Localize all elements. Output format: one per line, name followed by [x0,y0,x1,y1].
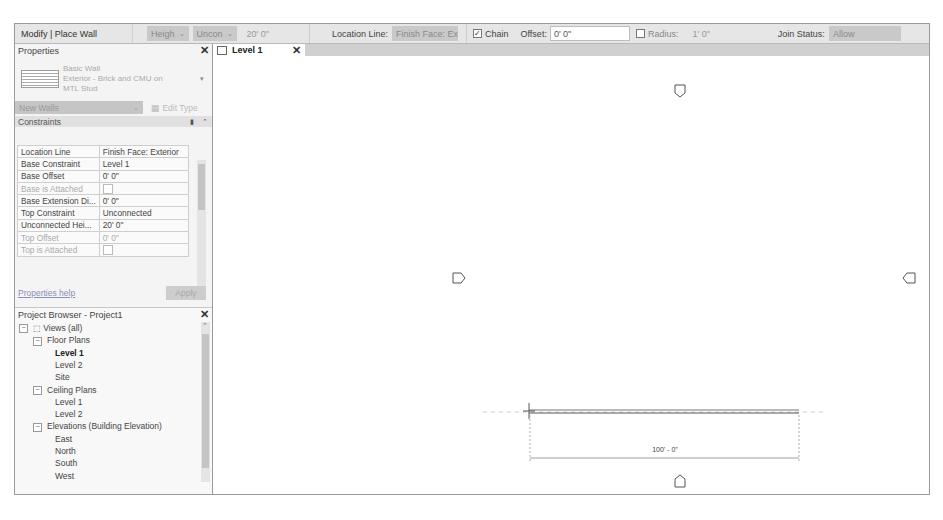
property-row[interactable]: Location LineFinish Face: Exterior [18,146,189,158]
edit-type-icon: ▦ [151,103,162,113]
property-key: Base Offset [18,170,100,182]
tree-item[interactable]: −Floor Plans [33,334,90,346]
elevation-marker-north-icon[interactable] [675,85,685,97]
property-row[interactable]: Base ConstraintLevel 1 [18,158,189,170]
tree-item[interactable]: Site [55,371,70,383]
properties-help-link[interactable]: Properties help [18,288,75,298]
property-row[interactable]: Top Offset0' 0" [18,232,189,244]
apply-button[interactable]: Apply [166,286,206,300]
tree-item-label: Level 1 [55,397,82,407]
edit-type-label: Edit Type [162,103,197,113]
tree-item[interactable]: Level 1 [55,347,84,359]
property-value[interactable]: 20' 0" [99,219,188,231]
temporary-dimension[interactable]: 100' - 0" [530,415,799,462]
collapse-toggle-icon[interactable]: − [33,386,42,395]
height-mode-dropdown[interactable]: Heigh⌄ [147,26,189,41]
options-bar: Modify | Place Wall Heigh⌄ Uncon⌄ 20' 0"… [15,24,929,44]
property-row[interactable]: Base is Attached [18,182,189,194]
close-icon[interactable]: ✕ [292,44,301,57]
tree-item[interactable]: South [55,457,77,469]
properties-title: Properties [18,46,59,56]
property-key: Top Constraint [18,207,100,219]
cursor-crosshair-icon [523,403,535,419]
radius-value-field[interactable]: 1' 0" [692,29,709,39]
dimension-label[interactable]: 100' - 0" [652,446,678,453]
instance-selector[interactable]: New Walls⌄ [15,101,143,114]
tree-item[interactable]: West [55,470,74,482]
tree-item[interactable]: Level 1 [55,396,82,408]
elevation-marker-west-icon[interactable] [453,273,465,283]
property-value[interactable] [99,182,188,194]
properties-header: Properties ✕ [15,44,212,57]
type-selector[interactable]: Basic Wall Exterior - Brick and CMU on M… [17,60,210,97]
property-row[interactable]: Base Extension Di...0' 0" [18,195,189,207]
edit-type-button[interactable]: ▦ Edit Type [151,103,198,113]
scroll-up-icon[interactable]: ⌃ [202,118,208,126]
property-key: Base is Attached [18,182,100,194]
tab-label: Level 1 [232,45,263,55]
tree-item[interactable]: North [55,445,76,457]
property-row[interactable]: Top is Attached [18,244,189,256]
divider [309,24,310,43]
check-icon: ✓ [473,29,482,38]
collapse-toggle-icon[interactable]: − [33,337,42,346]
chain-checkbox[interactable]: ✓Chain [473,29,509,39]
wall-type-preview-icon [21,70,59,88]
tree-item-label: East [55,434,72,444]
property-value[interactable]: Level 1 [99,158,188,170]
instance-selector-value: New Walls [19,103,59,113]
checkbox[interactable] [103,245,113,255]
height-target-value: Uncon [197,29,223,39]
tree-item[interactable]: −Elevations (Building Elevation) [33,420,162,432]
close-icon[interactable]: ✕ [200,308,209,321]
property-value[interactable]: 0' 0" [99,170,188,182]
type-name: Exterior - Brick and CMU on [63,74,163,84]
properties-scrollbar[interactable]: ⌄ [197,160,206,292]
property-key: Top Offset [18,232,100,244]
property-key: Location Line [18,146,100,158]
tree-item-label: Ceiling Plans [47,385,97,395]
tree-item[interactable]: −⬚ Views (all) [19,322,82,334]
scrollbar-thumb[interactable] [202,334,209,468]
tree-item[interactable]: Level 2 [55,408,82,420]
tree-item[interactable]: −Ceiling Plans [33,384,97,396]
tree-item-label: Floor Plans [47,335,90,345]
property-row[interactable]: Unconnected Hei...20' 0" [18,219,189,231]
tree-item-label: West [55,471,74,481]
tree-item-label: North [55,446,76,456]
scrollbar-thumb[interactable] [198,164,205,210]
project-browser: Project Browser - Project1 ✕ −⬚ Views (a… [15,307,212,494]
tree-item[interactable]: Level 2 [55,359,82,371]
collapse-toggle-icon[interactable]: − [33,423,42,432]
join-status-value: Allow [833,29,855,39]
constraints-group-header[interactable]: Constraints ▮ ⌃ [15,116,212,127]
browser-scrollbar[interactable]: ⌃ [201,322,210,482]
views-icon: ⬚ [33,324,43,333]
collapse-icon[interactable]: ▮ [190,118,194,126]
elevation-marker-south-icon[interactable] [675,475,685,487]
property-value[interactable]: 0' 0" [99,232,188,244]
property-value[interactable]: 0' 0" [99,195,188,207]
location-line-dropdown[interactable]: Finish Face: Ex [392,26,458,41]
property-value[interactable]: Finish Face: Exterior [99,146,188,158]
property-value[interactable]: Unconnected [99,207,188,219]
property-row[interactable]: Top ConstraintUnconnected [18,207,189,219]
close-icon[interactable]: ✕ [200,44,209,57]
height-value-field[interactable]: 20' 0" [247,29,269,39]
scroll-up-icon[interactable]: ⌃ [202,322,208,330]
tree-item-label: Level 2 [55,409,82,419]
property-row[interactable]: Base Offset0' 0" [18,170,189,182]
radius-checkbox[interactable]: Radius: [636,29,679,39]
elevation-marker-east-icon[interactable] [903,273,915,283]
type-name-cont: MTL Stud [63,84,163,94]
checkbox[interactable] [103,184,113,194]
collapse-toggle-icon[interactable]: − [19,324,28,333]
drawing-canvas[interactable]: 100' - 0" [213,57,929,494]
tab-level-1[interactable]: Level 1 ✕ [213,44,305,56]
offset-input[interactable]: 0' 0" [550,26,630,41]
property-value[interactable] [99,244,188,256]
height-target-dropdown[interactable]: Uncon⌄ [193,26,237,41]
context-label: Modify | Place Wall [15,24,133,43]
join-status-dropdown[interactable]: Allow [829,26,901,41]
tree-item[interactable]: East [55,433,72,445]
